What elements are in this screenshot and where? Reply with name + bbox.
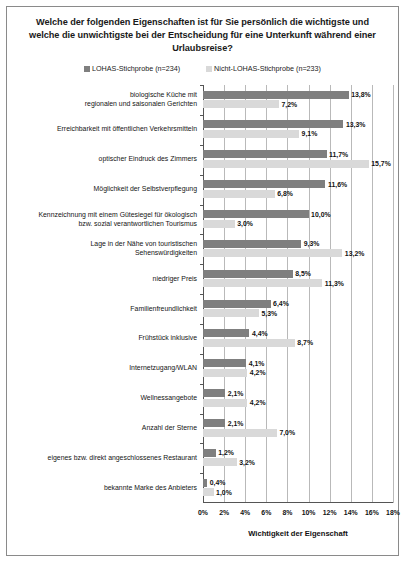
bar <box>203 150 327 158</box>
bar <box>203 329 249 337</box>
bar-row: Frühstück inklusive4,4%8,7% <box>203 324 393 354</box>
bar <box>203 309 259 317</box>
bar <box>203 339 295 347</box>
bar-row: Internetzugang/WLAN4,1%4,2% <box>203 354 393 384</box>
bar-value-label: 13,3% <box>346 121 366 129</box>
bar-value-label: 0,4% <box>210 479 226 487</box>
category-label: optischer Eindruck des Zimmers <box>17 155 197 164</box>
category-label: Anzahl der Sterne <box>17 424 197 433</box>
bar-value-label: 2,1% <box>228 390 244 398</box>
y-tick-mark <box>200 294 203 295</box>
category-label: Möglichkeit der Selbstverpflegung <box>17 185 197 194</box>
bar-row: Wellnessangebote2,1%4,2% <box>203 384 393 414</box>
bar-row: optischer Eindruck des Zimmers11,7%15,7% <box>203 145 393 175</box>
bar-value-label: 4,4% <box>252 330 268 338</box>
y-tick-mark <box>200 145 203 146</box>
plot-area: biologische Küche mit regionalen und sai… <box>203 85 393 503</box>
y-tick-mark <box>200 354 203 355</box>
bar-row: Familienfreundlichkeit6,4%5,3% <box>203 294 393 324</box>
bar-value-label: 13,8% <box>351 91 371 99</box>
y-tick-mark <box>200 414 203 415</box>
bar <box>203 399 247 407</box>
chart-legend: LOHAS-Stichprobe (n=234) Nicht-LOHAS-Sti… <box>7 64 398 73</box>
bar-row: bekannte Marke des Anbieters0,4%1,0% <box>203 473 393 503</box>
bar <box>203 240 301 248</box>
bar <box>203 130 299 138</box>
legend-swatch-nicht-lohas <box>206 66 212 72</box>
bar-value-label: 4,1% <box>249 360 265 368</box>
bar-value-label: 11,7% <box>329 151 348 159</box>
bar <box>203 458 237 466</box>
plot-wrapper: biologische Küche mit regionalen und sai… <box>7 81 398 513</box>
category-label: Lage in der Nähe von touristischen Sehen… <box>17 240 197 258</box>
x-tick-label: 14% <box>344 509 358 516</box>
bar-value-label: 1,2% <box>218 449 234 457</box>
bar-value-label: 8,7% <box>297 339 313 347</box>
y-tick-mark <box>200 115 203 116</box>
category-label: Erreichbarkeit mit öffentlichen Verkehrs… <box>17 125 197 134</box>
bar <box>203 160 369 168</box>
chart-figure: Welche der folgenden Eigenschaften ist f… <box>6 6 399 556</box>
y-tick-mark <box>200 384 203 385</box>
x-tick-label: 4% <box>240 509 250 516</box>
gridline <box>393 85 394 503</box>
bar <box>203 270 293 278</box>
category-label: Familienfreundlichkeit <box>17 305 197 314</box>
y-tick-mark <box>200 264 203 265</box>
bar-value-label: 7,2% <box>282 101 298 109</box>
category-label: Wellnessangebote <box>17 394 197 403</box>
chart-title: Welche der folgenden Eigenschaften ist f… <box>21 16 384 55</box>
x-tick-label: 18% <box>386 509 400 516</box>
bar-value-label: 9,3% <box>304 240 320 248</box>
bar-value-label: 7,0% <box>279 429 295 437</box>
legend-swatch-lohas <box>84 66 90 72</box>
y-tick-mark <box>200 473 203 474</box>
bar-value-label: 3,0% <box>237 220 253 228</box>
bar <box>203 100 279 108</box>
y-tick-mark <box>200 175 203 176</box>
bar-value-label: 5,3% <box>261 310 277 318</box>
x-axis-ticks: 0%2%4%6%8%10%12%14%16%18% <box>203 507 393 521</box>
x-tick-label: 6% <box>261 509 271 516</box>
legend-item-nicht-lohas: Nicht-LOHAS-Stichprobe (n=233) <box>206 64 321 73</box>
bar <box>203 359 246 367</box>
y-tick-mark <box>200 443 203 444</box>
x-tick-label: 2% <box>219 509 229 516</box>
x-tick-label: 16% <box>365 509 379 516</box>
bar <box>203 249 342 257</box>
bar-value-label: 11,3% <box>325 280 344 288</box>
category-label: eigenes bzw. direkt angeschlossenes Rest… <box>17 454 197 463</box>
bar <box>203 479 207 487</box>
bar <box>203 180 325 188</box>
bar-value-label: 4,2% <box>250 399 266 407</box>
bar-value-label: 11,6% <box>328 181 347 189</box>
bar <box>203 300 271 308</box>
category-label: Kennzeichnung mit einem Gütesiegel für ö… <box>17 211 197 229</box>
bar-value-label: 9,1% <box>302 130 318 138</box>
bar <box>203 389 225 397</box>
bar <box>203 190 275 198</box>
category-label: bekannte Marke des Anbieters <box>17 484 197 493</box>
bar <box>203 488 214 496</box>
category-label: Frühstück inklusive <box>17 334 197 343</box>
bar-value-label: 4,2% <box>250 369 266 377</box>
bar <box>203 120 343 128</box>
bar-row: eigenes bzw. direkt angeschlossenes Rest… <box>203 443 393 473</box>
bar-value-label: 3,2% <box>239 459 255 467</box>
bar-value-label: 6,4% <box>273 300 289 308</box>
y-tick-mark <box>200 205 203 206</box>
category-label: niedriger Preis <box>17 275 197 284</box>
category-label: Internetzugang/WLAN <box>17 364 197 373</box>
y-tick-mark <box>200 85 203 86</box>
x-tick-label: 10% <box>302 509 316 516</box>
x-axis-title: Wichtigkeit der Eigenschaft <box>203 529 393 538</box>
x-tick-label: 8% <box>282 509 292 516</box>
bar <box>203 369 247 377</box>
bar-value-label: 15,7% <box>371 160 391 168</box>
y-tick-mark <box>200 324 203 325</box>
bar <box>203 429 277 437</box>
bar-row: Erreichbarkeit mit öffentlichen Verkehrs… <box>203 115 393 145</box>
legend-label-nicht-lohas: Nicht-LOHAS-Stichprobe (n=233) <box>214 64 321 73</box>
bar-rows: biologische Küche mit regionalen und sai… <box>203 85 393 503</box>
bar <box>203 279 322 287</box>
